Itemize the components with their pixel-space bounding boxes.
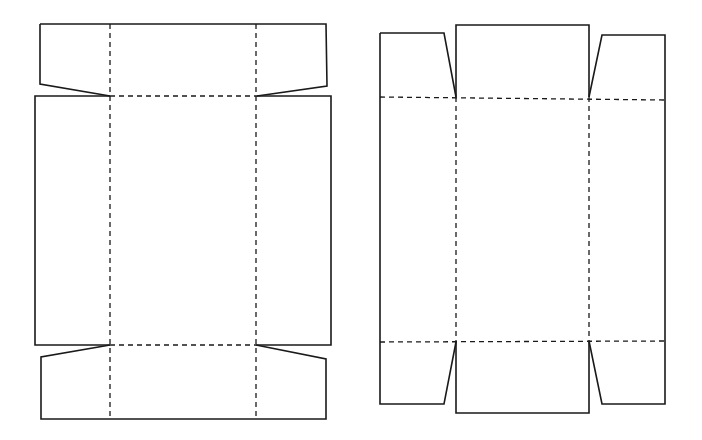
cut-line [456, 25, 589, 97]
cut-line [40, 24, 327, 96]
cut-line [256, 96, 331, 345]
cut-line [456, 341, 589, 413]
cut-line [380, 33, 456, 97]
left-box-net [35, 24, 331, 419]
cut-line [589, 341, 665, 404]
cut-line [35, 96, 110, 345]
cut-line [40, 24, 110, 96]
cut-line [380, 33, 456, 404]
cut-line [41, 345, 326, 419]
right-box-net [380, 25, 665, 413]
box-nets-diagram [0, 0, 702, 440]
cut-line [589, 35, 665, 100]
fold-line [380, 341, 665, 342]
fold-line [380, 97, 665, 100]
